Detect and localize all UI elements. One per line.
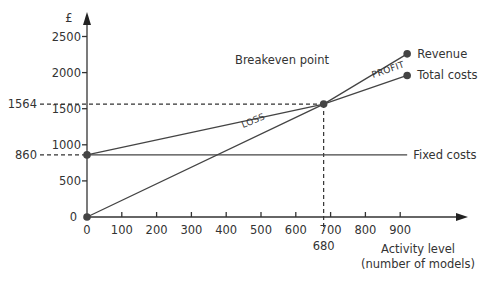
guide-label-860: 860: [15, 148, 37, 162]
x-tick-label: 200: [146, 223, 168, 237]
axes: [83, 12, 468, 221]
marker-origin: [83, 213, 91, 221]
x-axis-label: (number of models): [361, 257, 475, 271]
x-axis-label: Activity level: [381, 242, 455, 256]
profit-label: PROFIT: [370, 59, 405, 80]
marker-fixed-costs-start: [83, 151, 91, 159]
breakeven-label: Breakeven point: [235, 53, 329, 67]
x-tick-label: 900: [389, 223, 411, 237]
series-lines: [87, 54, 407, 217]
guide-label-1564: 1564: [8, 97, 37, 111]
y-tick-label: 2500: [52, 30, 81, 44]
y-tick-label: 1500: [52, 102, 81, 116]
x-tick-label: 0: [83, 223, 90, 237]
x-tick-label: 300: [180, 223, 202, 237]
series-label-total-costs: Total costs: [416, 68, 477, 82]
loss-label: LOSS: [240, 111, 266, 129]
x-axis-arrow-icon: [456, 213, 468, 221]
y-tick-label: 1000: [52, 138, 81, 152]
series-label-revenue: Revenue: [417, 47, 467, 61]
x-tick-label: 600: [285, 223, 307, 237]
series-revenue: [87, 54, 407, 217]
marker-revenue-end: [403, 50, 411, 58]
x-tick-label: 800: [354, 223, 376, 237]
series-label-fixed-costs: Fixed costs: [413, 148, 476, 162]
x-tick-label: 400: [215, 223, 237, 237]
y-axis-arrow-icon: [83, 12, 91, 25]
breakeven-chart: 1564860680 05001000150020002500010020030…: [0, 0, 482, 283]
x-tick-label: 700: [320, 223, 342, 237]
x-tick-label: 100: [111, 223, 133, 237]
guide-label-680: 680: [313, 239, 335, 253]
marker-total-costs-end: [403, 72, 411, 80]
series-total-costs: [87, 75, 407, 154]
marker-breakeven: [320, 100, 328, 108]
ticks: 0500100015002000250001002003004005006007…: [52, 30, 411, 238]
y-tick-label: 500: [59, 174, 81, 188]
y-tick-label: 2000: [52, 66, 81, 80]
x-tick-label: 500: [250, 223, 272, 237]
y-axis-label: £: [65, 11, 72, 25]
y-tick-label: 0: [70, 210, 77, 224]
